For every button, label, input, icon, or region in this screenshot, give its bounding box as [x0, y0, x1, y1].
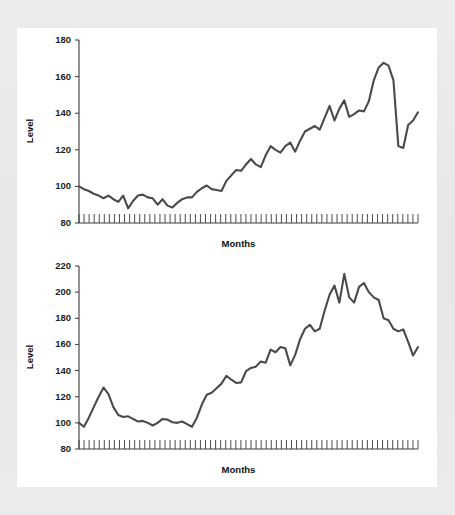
- y-tick-label: 100: [55, 417, 71, 428]
- chart-2-ylabel: Level: [24, 345, 35, 369]
- chart-1-canvas: 80100120140160180MonthsLevel: [17, 28, 437, 258]
- figure-background: 80100120140160180MonthsLevel 80100120140…: [0, 0, 455, 515]
- y-tick-label: 220: [55, 260, 71, 271]
- y-tick-label: 180: [55, 312, 71, 323]
- y-tick-label: 140: [55, 365, 71, 376]
- y-tick-label: 160: [55, 71, 71, 82]
- chart-1-xlabel: Months: [222, 238, 256, 249]
- y-tick-label: 80: [60, 443, 71, 454]
- y-tick-label: 180: [55, 34, 71, 45]
- y-tick-label: 160: [55, 338, 71, 349]
- y-tick-label: 200: [55, 286, 71, 297]
- chart-2-xlabel: Months: [222, 464, 256, 475]
- chart-2-data-line: [79, 274, 418, 427]
- y-tick-label: 120: [55, 391, 71, 402]
- chart-1: 80100120140160180MonthsLevel: [17, 28, 437, 258]
- y-tick-label: 100: [55, 180, 71, 191]
- y-tick-label: 140: [55, 107, 71, 118]
- chart-1-data-line: [79, 63, 418, 208]
- y-tick-label: 80: [60, 217, 71, 228]
- y-tick-label: 120: [55, 144, 71, 155]
- chart-2-canvas: 80100120140160180200220MonthsLevel: [17, 258, 437, 487]
- chart-1-ylabel: Level: [24, 119, 35, 143]
- figure-panel: 80100120140160180MonthsLevel 80100120140…: [17, 28, 437, 487]
- chart-2: 80100120140160180200220MonthsLevel: [17, 258, 437, 487]
